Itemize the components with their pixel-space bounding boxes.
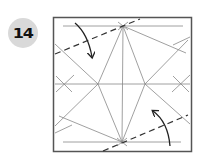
origami-diagram (0, 0, 202, 168)
